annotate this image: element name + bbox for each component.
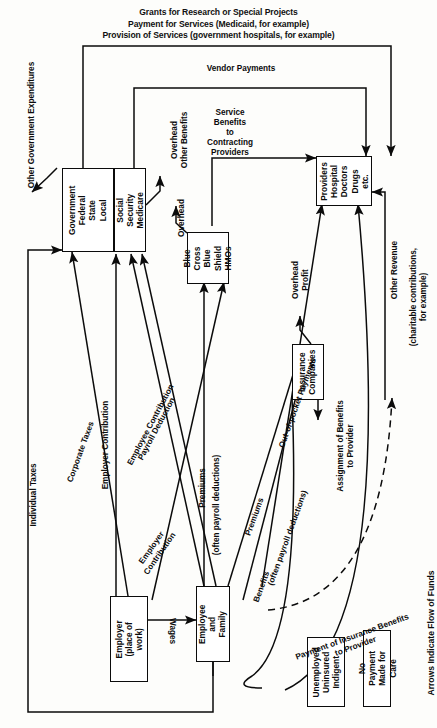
node-unemployed-label: Unemployed Uninsured Indigent — [311, 647, 342, 697]
edge-premiums-insurance-1 — [228, 352, 300, 586]
node-employer-label: Employer (place of work) — [114, 620, 145, 658]
edge-overhead-other-benefits — [146, 176, 160, 205]
edge-employer-contribution-2 — [152, 282, 224, 600]
diagram-canvas: Grants for Research or Special Projects … — [0, 0, 437, 728]
node-blue-cross-label: Blue Cross Blue Shield HMOs — [182, 238, 233, 278]
node-no-payment-label: No Payment Made for Care — [357, 651, 398, 686]
node-unemployed[interactable]: Unemployed Uninsured Indigent — [307, 637, 345, 707]
edge-premiums-insurance-2 — [243, 366, 304, 600]
node-insurance-companies-label: Insurance Companies — [298, 349, 318, 394]
node-social-security[interactable]: Social Security Medicare — [114, 168, 146, 252]
node-social-security-label: Social Security Medicare — [115, 192, 146, 228]
edge-service-benefits-contracting — [212, 158, 316, 226]
node-employee-family-label: Employee and Family — [198, 604, 229, 644]
node-providers-label: Providers Hospital Doctors Drugs etc. — [318, 162, 369, 201]
node-government-label: Government Federal State Local — [68, 185, 109, 234]
node-employee-family[interactable]: Employee and Family — [196, 586, 230, 662]
node-blue-cross[interactable]: Blue Cross Blue Shield HMOs — [187, 232, 229, 284]
node-providers[interactable]: Providers Hospital Doctors Drugs etc. — [316, 156, 372, 206]
edge-payment-of-insurance-benefits — [285, 204, 368, 690]
node-government[interactable]: Government Federal State Local — [62, 168, 114, 252]
edge-grants-to-providers — [83, 46, 391, 168]
edge-overhead-blue-cross — [176, 206, 187, 233]
node-employer[interactable]: Employer (place of work) — [110, 596, 148, 682]
node-insurance-companies[interactable]: Insurance Companies — [292, 344, 324, 400]
node-no-payment[interactable]: No Payment Made for Care — [363, 630, 391, 707]
edge-other-revenue — [372, 192, 385, 400]
edge-payroll-deduction — [142, 254, 216, 586]
edge-corporate-taxes — [72, 252, 128, 596]
edge-other-government-expenditures — [32, 168, 57, 192]
